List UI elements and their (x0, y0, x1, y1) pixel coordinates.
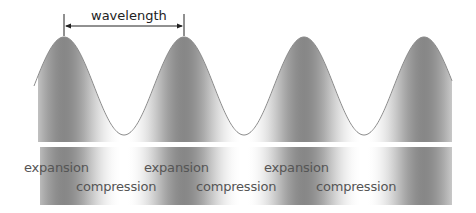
expansion-label-2: expansion (144, 160, 209, 175)
sound-wave-diagram: wavelength expansion compression expansi… (0, 0, 476, 213)
wave-fill (38, 30, 452, 142)
compression-label-3: compression (316, 179, 396, 194)
expansion-label-3: expansion (264, 160, 329, 175)
density-band (40, 147, 452, 205)
arrow-left-icon (65, 24, 71, 29)
arrow-right-icon (177, 24, 183, 29)
compression-label-1: compression (76, 179, 156, 194)
compression-label-2: compression (196, 179, 276, 194)
expansion-label-1: expansion (24, 160, 89, 175)
wavelength-label: wavelength (91, 8, 167, 23)
